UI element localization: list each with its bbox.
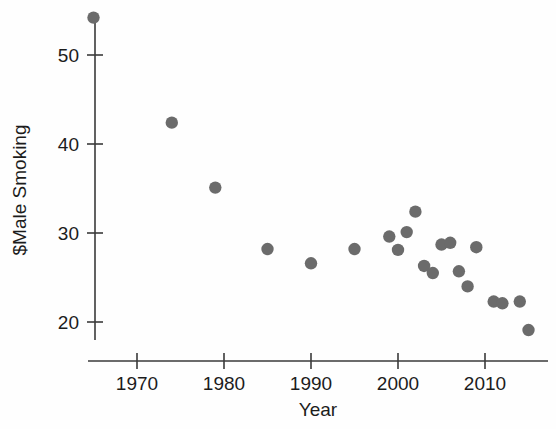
data-point (166, 116, 178, 128)
scatter-plot-figure: 20304050 19701980199020002010 Year $Male… (0, 0, 556, 429)
data-point (427, 267, 439, 279)
x-axis-tick-labels: 19701980199020002010 (116, 373, 506, 394)
y-tick-label: 40 (58, 134, 79, 155)
data-point (522, 324, 534, 336)
data-point (348, 243, 360, 255)
data-point (87, 11, 99, 23)
x-tick-label: 2000 (377, 373, 419, 394)
x-tick-label: 1990 (290, 373, 332, 394)
y-tick-label: 30 (58, 223, 79, 244)
x-tick-label: 1980 (203, 373, 245, 394)
y-axis: 20304050 (58, 22, 103, 340)
y-tick-label: 50 (58, 45, 79, 66)
x-tick-label: 1970 (116, 373, 158, 394)
data-point (261, 243, 273, 255)
data-point (453, 265, 465, 277)
data-point (444, 237, 456, 249)
data-point (392, 244, 404, 256)
x-axis: 19701980199020002010 (88, 353, 548, 394)
y-axis-title: $Male Smoking (9, 125, 30, 256)
y-tick-label: 20 (58, 312, 79, 333)
data-point (409, 205, 421, 217)
data-points-layer (87, 11, 534, 336)
data-point (401, 226, 413, 238)
data-point (461, 280, 473, 292)
data-point (305, 257, 317, 269)
data-point (470, 241, 482, 253)
y-axis-tick-labels: 20304050 (58, 45, 79, 333)
plot-canvas: 20304050 19701980199020002010 Year $Male… (0, 0, 556, 429)
x-tick-label: 2010 (464, 373, 506, 394)
data-point (514, 295, 526, 307)
data-point (383, 230, 395, 242)
x-axis-title: Year (299, 399, 338, 420)
data-point (496, 297, 508, 309)
data-point (209, 181, 221, 193)
